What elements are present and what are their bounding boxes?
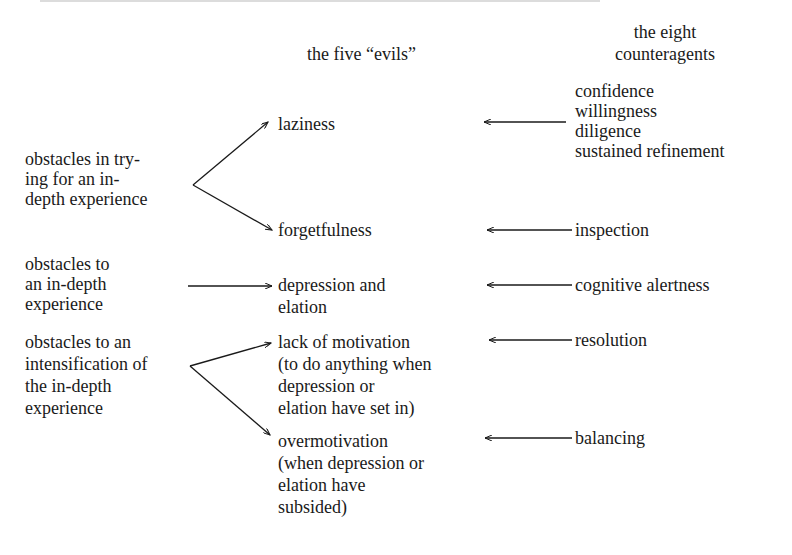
arrow-to-laziness: [193, 122, 268, 185]
arrow-to-overmotivation: [190, 366, 270, 435]
arrow-to-forgetfulness: [193, 185, 272, 230]
connector-arrows: [0, 0, 792, 555]
arrow-to-lack-of-motivation: [190, 343, 271, 366]
